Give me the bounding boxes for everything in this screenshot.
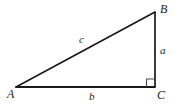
side-label-a: a [160,45,166,56]
geometry-diagram: A B C a b c [0,0,182,108]
vertex-label-b: B [160,3,167,15]
vertex-label-a: A [7,88,14,100]
side-c-line [16,12,155,87]
vertex-label-c: C [157,89,165,101]
right-angle-marker-icon [147,79,156,87]
side-label-c: c [79,34,84,45]
side-label-b: b [89,91,95,102]
